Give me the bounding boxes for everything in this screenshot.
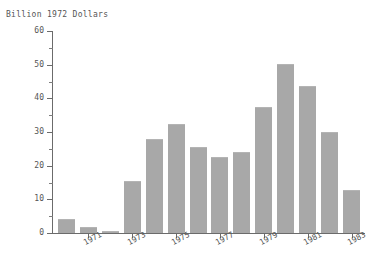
y-tick-label: 10 bbox=[4, 195, 44, 203]
bar bbox=[58, 219, 75, 233]
bar bbox=[190, 147, 207, 233]
bar bbox=[321, 132, 338, 233]
bar bbox=[102, 231, 119, 233]
y-tick-label: 60 bbox=[4, 27, 44, 35]
y-tick-major bbox=[47, 233, 53, 234]
bar bbox=[124, 181, 141, 233]
bar bbox=[255, 107, 272, 233]
y-tick-label: 0 bbox=[4, 229, 44, 237]
bar bbox=[168, 124, 185, 233]
bar bbox=[233, 152, 250, 233]
bar-chart: Billion 1972 Dollars 0102030405060 19711… bbox=[0, 0, 374, 264]
bar bbox=[146, 139, 163, 233]
y-tick-label: 30 bbox=[4, 128, 44, 136]
bar bbox=[211, 157, 228, 233]
y-tick-label: 50 bbox=[4, 61, 44, 69]
y-tick-label: 40 bbox=[4, 94, 44, 102]
plot-area bbox=[53, 31, 365, 233]
chart-title: Billion 1972 Dollars bbox=[6, 10, 108, 19]
y-tick-label: 20 bbox=[4, 162, 44, 170]
bar bbox=[277, 64, 294, 233]
bar bbox=[343, 190, 360, 233]
bar bbox=[80, 227, 97, 233]
bar bbox=[299, 86, 316, 233]
